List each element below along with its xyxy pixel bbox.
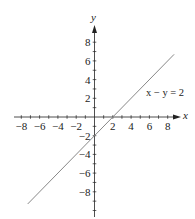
- x-tick-label: −8: [15, 120, 27, 132]
- x-tick-label: −6: [34, 120, 46, 132]
- y-tick-label: 8: [85, 36, 91, 48]
- equation-annotation: x − y = 2: [146, 87, 184, 98]
- x-tick-label: 2: [110, 120, 116, 132]
- coordinate-plane: −8−6−4−224688642−2−4−6−8 x y x − y = 2: [0, 0, 195, 219]
- y-tick-label: −6: [79, 167, 91, 179]
- y-tick-label: −4: [79, 148, 91, 160]
- y-tick-label: 2: [85, 92, 91, 104]
- x-arrow-icon: [173, 115, 181, 120]
- x-tick-label: −4: [52, 120, 64, 132]
- x-tick-label: 4: [128, 120, 134, 132]
- y-arrow-icon: [92, 25, 97, 33]
- y-axis: [92, 25, 97, 217]
- x-axis: [14, 115, 181, 120]
- x-axis-label: x: [182, 109, 188, 121]
- y-tick-label: 6: [85, 55, 91, 67]
- y-axis-label: y: [90, 11, 96, 23]
- y-tick-label: −8: [79, 186, 91, 198]
- x-tick-label: 8: [165, 120, 171, 132]
- x-tick-label: 6: [147, 120, 153, 132]
- y-tick-label: −2: [79, 130, 91, 142]
- y-tick-label: 4: [85, 74, 91, 86]
